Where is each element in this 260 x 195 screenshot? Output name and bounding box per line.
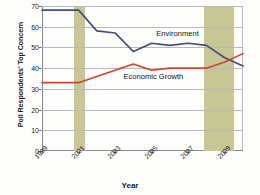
y-axis-title: Poll Respondents' Top Concern: [16, 5, 25, 145]
y-tick-label: 20: [31, 106, 39, 113]
line-chart: Poll Respondents' Top Concern 0102030405…: [0, 0, 260, 195]
series-line-environment: [42, 10, 243, 66]
y-tick-label: 30: [31, 85, 39, 92]
y-tick-label: 70: [31, 3, 39, 10]
y-tick-label: 60: [31, 23, 39, 30]
y-tick-label: 10: [31, 127, 39, 134]
plot-area: 010203040506070199920012003200520072009E…: [42, 6, 243, 151]
series-annotation-environment: Environment: [155, 29, 200, 38]
y-tick-label: 40: [31, 65, 39, 72]
x-axis-title: Year: [0, 181, 260, 190]
y-tick-label: 50: [31, 44, 39, 51]
series-annotation-economic-growth: Economic Growth: [122, 72, 184, 81]
